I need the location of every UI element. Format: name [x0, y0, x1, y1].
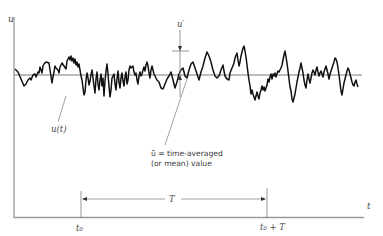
signal-leader-line: [58, 96, 66, 122]
interval-label: T: [169, 194, 176, 204]
interval-right-arrowhead: [261, 197, 266, 201]
fluctuation-arrowhead: [178, 46, 182, 51]
end-time-label: t₀ + T: [260, 222, 286, 232]
mean-label-line1: ū = time-averaged: [151, 149, 223, 158]
x-axis-label: t: [367, 201, 371, 211]
interval-left-arrowhead: [82, 197, 87, 201]
y-axis-label: u: [8, 14, 14, 24]
velocity-signal-trace: [15, 46, 358, 102]
start-time-label: t₀: [76, 223, 83, 233]
mean-annotation: ū = time-averaged (or mean) value: [151, 79, 223, 168]
turbulence-diagram: u t u′ u(t) ū = time-averaged (or mean) …: [0, 0, 383, 236]
mean-leader-line: [165, 79, 187, 145]
signal-annotation: u(t): [51, 96, 67, 134]
axes: u t: [8, 14, 371, 218]
mean-label-line2: (or mean) value: [151, 159, 212, 168]
fluctuation-label: u′: [177, 19, 184, 29]
signal-label: u(t): [51, 124, 67, 134]
averaging-interval: T t₀ t₀ + T: [76, 188, 286, 233]
